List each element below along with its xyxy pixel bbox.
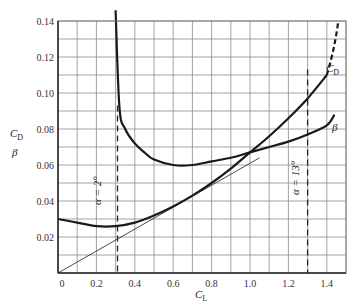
y-tick-label: 0.14 <box>37 16 55 27</box>
alpha-2-label: α = 2° <box>91 176 103 205</box>
y-tick-label: 0.06 <box>37 160 55 171</box>
x-tick-label: 0.2 <box>90 278 103 289</box>
x-tick-label: 1.2 <box>282 278 295 289</box>
y-tick-label: 0.04 <box>37 196 55 207</box>
drag-polar-chart: 0.020.040.060.080.100.120.14 00.20.40.60… <box>0 0 356 305</box>
y-tick-label: 0.10 <box>37 88 55 99</box>
x-tick-label: 0 <box>60 278 65 289</box>
y-tick-label: 0.12 <box>37 52 55 63</box>
y-tick-label: 0.02 <box>37 232 55 243</box>
y-tick-label: 0.08 <box>37 124 55 135</box>
x-tick-label: 1.4 <box>321 278 334 289</box>
beta-curve <box>116 10 335 165</box>
tangent-line <box>58 158 260 273</box>
x-tick-label: 0.8 <box>205 278 218 289</box>
x-tick-label: 0.4 <box>129 278 142 289</box>
grid-lines <box>58 21 346 273</box>
y-axis-label-cd: CD <box>10 127 23 142</box>
x-tick-label: 1.0 <box>244 278 257 289</box>
beta-curve-label: β <box>331 121 338 133</box>
x-axis-label-cl: CL <box>195 288 207 303</box>
y-axis-label-beta: β <box>11 146 18 158</box>
x-tick-label: 0.6 <box>167 278 180 289</box>
alpha-13-label: α = 13° <box>289 160 301 195</box>
y-tick-labels: 0.020.040.060.080.100.120.14 <box>37 16 55 243</box>
